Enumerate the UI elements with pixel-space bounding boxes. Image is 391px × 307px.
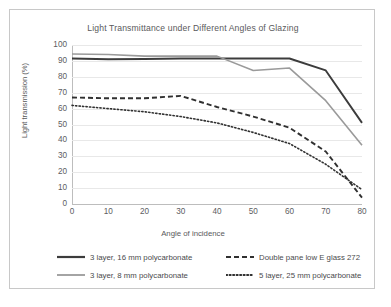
legend-swatch-icon — [226, 252, 254, 262]
legend-item: Double pane low E glass 272 — [226, 250, 360, 264]
y-tick-label: 20 — [27, 168, 67, 176]
x-tick-label: 40 — [197, 208, 237, 216]
y-tick-label: 60 — [27, 105, 67, 113]
series-line — [72, 96, 362, 198]
legend-item: 3 layer, 16 mm polycarbonate — [57, 250, 192, 264]
x-tick-label: 20 — [125, 208, 165, 216]
y-tick-label: 40 — [27, 136, 67, 144]
legend-label: Double pane low E glass 272 — [259, 253, 360, 262]
x-tick-label: 60 — [270, 208, 310, 216]
x-tick-label: 50 — [233, 208, 273, 216]
series-line — [72, 59, 362, 123]
legend-item: 3 layer, 8 mm polycarbonate — [57, 268, 188, 282]
y-tick-label: 80 — [27, 73, 67, 81]
legend-label: 5 layer, 25 mm polycarbonate — [259, 271, 361, 280]
legend-label: 3 layer, 8 mm polycarbonate — [90, 271, 188, 280]
plot-area: 0102030405060708090100 01020304050607080 — [72, 45, 362, 204]
x-tick-label: 30 — [161, 208, 201, 216]
chart-legend: 3 layer, 16 mm polycarbonate 3 layer, 8 … — [10, 250, 376, 290]
chart-title: Light Transmittance under Different Angl… — [10, 23, 376, 33]
y-tick-label: 100 — [27, 41, 67, 49]
legend-swatch-icon — [57, 270, 85, 280]
series-lines — [72, 45, 362, 204]
chart-figure: Light Transmittance under Different Angl… — [9, 9, 375, 289]
x-axis-label: Angle of incidence — [10, 229, 376, 238]
x-tick-label: 0 — [52, 208, 92, 216]
x-tick-label: 70 — [306, 208, 346, 216]
y-tick-label: 70 — [27, 89, 67, 97]
y-tick-label: 30 — [27, 152, 67, 160]
legend-swatch-icon — [226, 270, 254, 280]
legend-label: 3 layer, 16 mm polycarbonate — [90, 253, 192, 262]
x-tick-label: 80 — [342, 208, 382, 216]
gridline — [72, 204, 362, 205]
y-tick-label: 10 — [27, 184, 67, 192]
y-tick-label: 90 — [27, 57, 67, 65]
legend-swatch-icon — [57, 252, 85, 262]
x-tick-label: 10 — [88, 208, 128, 216]
y-tick-label: 50 — [27, 121, 67, 129]
y-tick-label: 0 — [27, 200, 67, 208]
legend-item: 5 layer, 25 mm polycarbonate — [226, 268, 361, 282]
